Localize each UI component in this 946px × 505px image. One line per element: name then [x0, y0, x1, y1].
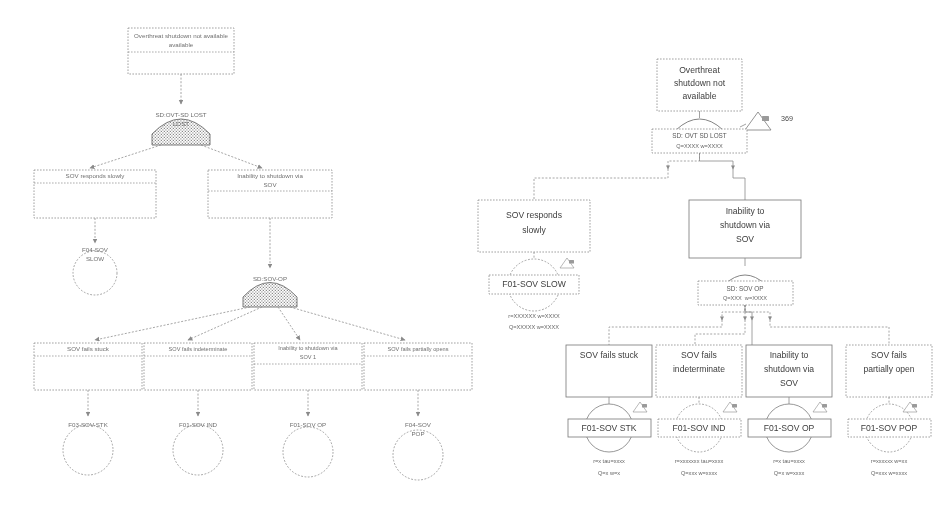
left-mid-box-slow-label: SOV responds slowly — [66, 172, 126, 179]
right-route-1 — [609, 320, 722, 345]
right-event-pop: F01-SOV POP r=xxxxxx w=xx Q=xxx w=xxxx — [848, 397, 931, 476]
right-mid-box-slow-label-1: SOV responds — [506, 210, 562, 220]
right-diagram: Overthreat shutdown not available 369 SD… — [478, 59, 932, 476]
left-diagram: Overthreat shutdown not available availa… — [34, 28, 472, 480]
right-event-stk-stats-1: r=x tau=xxxx — [593, 458, 625, 464]
right-event-slow-stats-1: r=XXXXXX w=XXXX — [508, 313, 560, 319]
right-bottom-box-indeterminate: SOV fails indeterminate — [656, 345, 742, 397]
fault-tree-svg: Overthreat shutdown not available availa… — [0, 0, 946, 505]
left-event-ind-label: F01-SOV IND — [179, 421, 218, 428]
left-top-gate-label-1: SD:OVT-SD LOST — [155, 111, 206, 118]
right-mid-gate-stats: Q=XXX w=XXXX — [723, 295, 767, 301]
right-mid-box-slow: SOV responds slowly — [478, 200, 590, 252]
left-top-box: Overthreat shutdown not available availa… — [128, 28, 234, 74]
right-bottom-box-stuck: SOV fails stuck — [566, 345, 652, 397]
right-top-gate — [676, 111, 723, 130]
right-top-gate-name: SD: OVT SD LOST — [672, 132, 727, 139]
left-mid-box-slow: SOV responds slowly — [34, 170, 156, 218]
right-bottom-box-indeterminate-label-2: indeterminate — [673, 364, 725, 374]
left-top-gate-label-2: LOST — [173, 120, 189, 127]
right-event-slow-stats-2: Q=XXXXX w=XXXX — [509, 324, 559, 330]
left-mid-box-inability: Inability to shutdown via SOV — [208, 170, 332, 218]
left-top-box-label-2: available — [169, 41, 194, 48]
diagram-canvas: Overthreat shutdown not available availa… — [0, 0, 946, 505]
left-branch-a — [90, 145, 161, 168]
right-event-ind-label: F01-SOV IND — [672, 423, 725, 433]
right-event-stk-stats-2: Q=x w=x — [598, 470, 620, 476]
right-mid-gate-name: SD: SOV OP — [727, 285, 764, 292]
right-bottom-box-partial-label-2: partially open — [863, 364, 914, 374]
left-bottom-box-indeterminate-label: SOV fails indeterminate — [169, 346, 228, 352]
left-event-op-label: F01-SOV OP — [290, 421, 326, 428]
left-event-pop-label-1: F04-SOV — [405, 421, 432, 428]
right-mid-box-slow-label-2: slowly — [522, 225, 546, 235]
left-top-box-label-1: Overthreat shutdown not available — [134, 32, 228, 39]
left-mid-gate: SD:SOV-OP — [243, 275, 297, 307]
right-mid-box-inability-label-2: shutdown via — [720, 220, 770, 230]
left-bottom-box-partial-label: SOV fails partially opens — [388, 346, 449, 352]
left-branch-4 — [290, 307, 405, 340]
left-event-stk-label: F03-SOV-STK — [68, 421, 108, 428]
right-bottom-box-inability-label-2: shutdown via — [764, 364, 814, 374]
right-route-4 — [770, 320, 889, 345]
right-event-op-stats-1: r=x tau=xxxx — [773, 458, 805, 464]
right-route-2 — [695, 320, 745, 345]
left-event-pop: F04-SOV POP — [393, 421, 443, 480]
right-mid-box-inability-label-3: SOV — [736, 234, 754, 244]
right-event-op-stats-2: Q=x w=xxxx — [774, 470, 805, 476]
left-event-stk: F03-SOV-STK — [63, 421, 113, 475]
right-bottom-box-inability: Inability to shutdown via SOV — [746, 345, 832, 397]
left-mid-gate-label: SD:SOV-OP — [253, 275, 287, 282]
right-event-pop-label: F01-SOV POP — [861, 423, 918, 433]
left-event-slow-label-1: F04-SOV — [82, 246, 109, 253]
right-mid-gate: SD: SOV OP Q=XXX w=XXXX — [698, 258, 793, 305]
right-bottom-box-stuck-label-1: SOV fails stuck — [580, 350, 639, 360]
left-branch-3 — [278, 307, 300, 340]
right-bottom-box-partial: SOV fails partially open — [846, 345, 932, 397]
left-bottom-box-stuck-label: SOV fails stuck — [67, 345, 110, 352]
left-event-op: F01-SOV OP — [283, 421, 333, 477]
left-event-slow: F04-SOV SLOW — [73, 246, 117, 295]
right-event-slow: F01-SOV SLOW r=XXXXXX w=XXXX Q=XXXXX w=X… — [489, 252, 579, 330]
right-mid-box-inability: Inability to shutdown via SOV — [689, 200, 801, 258]
right-branch-left — [668, 153, 700, 169]
right-route-slow — [534, 169, 668, 200]
left-mid-box-inability-label-1: Inability to shutdown via — [237, 172, 303, 179]
right-top-box-label-3: available — [683, 91, 717, 101]
right-event-ind: F01-SOV IND r=xxxxxxx tau=xxxx Q=xxx w=x… — [658, 397, 741, 476]
right-event-slow-label: F01-SOV SLOW — [502, 279, 566, 289]
left-top-gate: SD:OVT-SD LOST LOST — [152, 111, 210, 145]
left-bottom-box-partial: SOV fails partially opens — [364, 343, 472, 390]
right-event-ind-stats-2: Q=xxx w=xxxx — [681, 470, 717, 476]
right-bottom-box-indeterminate-label-1: SOV fails — [681, 350, 717, 360]
left-bottom-box-inability-label-1: Inability to shutdown via — [278, 345, 338, 351]
right-stub-1 — [722, 305, 745, 320]
left-mid-box-inability-label-2: SOV — [263, 181, 277, 188]
right-event-ind-stats-1: r=xxxxxxx tau=xxxx — [675, 458, 724, 464]
left-bottom-box-inability-label-2: SOV 1 — [300, 354, 316, 360]
right-top-box: Overthreat shutdown not available — [657, 59, 742, 111]
left-event-pop-label-2: POP — [411, 430, 424, 437]
right-transfer-369: 369 — [740, 112, 793, 130]
right-top-box-label-2: shutdown not — [674, 78, 726, 88]
right-bottom-box-partial-label-1: SOV fails — [871, 350, 907, 360]
left-event-ind: F01-SOV IND — [173, 421, 223, 475]
right-event-op-label: F01-SOV OP — [764, 423, 815, 433]
left-bottom-box-inability: Inability to shutdown via SOV 1 — [254, 343, 362, 390]
right-event-stk: F01-SOV STK r=x tau=xxxx Q=x w=x — [568, 397, 651, 476]
left-bottom-box-stuck: SOV fails stuck — [34, 343, 142, 390]
right-branch-right — [700, 153, 734, 169]
left-event-slow-label-2: SLOW — [86, 255, 104, 262]
right-event-pop-stats-2: Q=xxx w=xxxx — [871, 470, 907, 476]
right-top-gate-stats: Q=XXXX w=XXXX — [676, 143, 723, 149]
right-event-op: F01-SOV OP r=x tau=xxxx Q=x w=xxxx — [748, 397, 831, 476]
right-top-gate-box: SD: OVT SD LOST Q=XXXX w=XXXX — [652, 129, 747, 153]
right-event-pop-stats-1: r=xxxxxx w=xx — [871, 458, 908, 464]
right-transfer-369-label: 369 — [781, 114, 793, 123]
right-bottom-box-inability-label-3: SOV — [780, 378, 798, 388]
left-bottom-box-indeterminate: SOV fails indeterminate — [144, 343, 252, 390]
left-branch-1 — [95, 307, 250, 340]
right-stub-3 — [745, 305, 752, 320]
right-event-stk-label: F01-SOV STK — [582, 423, 637, 433]
right-mid-box-inability-label-1: Inability to — [726, 206, 765, 216]
